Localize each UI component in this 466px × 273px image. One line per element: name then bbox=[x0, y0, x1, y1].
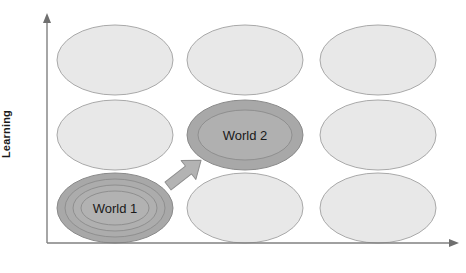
ellipse-r2c1 bbox=[187, 173, 303, 243]
world1-label: World 1 bbox=[93, 201, 138, 216]
ellipse-r2c2 bbox=[320, 173, 436, 243]
ellipse-r1c0 bbox=[57, 100, 173, 170]
horizontal-axis-arrowhead bbox=[449, 239, 459, 247]
ellipse-r1c2 bbox=[320, 100, 436, 170]
diagram-canvas: World 1 World 2 Learning bbox=[0, 0, 466, 273]
ellipse-r0c0 bbox=[57, 25, 173, 95]
ellipse-r0c1 bbox=[187, 25, 303, 95]
vertical-axis-arrowhead bbox=[43, 13, 51, 23]
ellipse-r0c2 bbox=[320, 25, 436, 95]
y-axis-label: Learning bbox=[0, 110, 12, 158]
world2-label: World 2 bbox=[223, 128, 268, 143]
